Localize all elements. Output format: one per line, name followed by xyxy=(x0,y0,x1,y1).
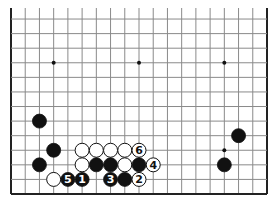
black-stone-move-5: 5 xyxy=(61,172,75,186)
stone-disc xyxy=(104,143,118,157)
stone-disc xyxy=(89,143,103,157)
black-stone xyxy=(32,114,46,128)
white-stone xyxy=(118,143,132,157)
move-number: 5 xyxy=(64,173,72,186)
stone-disc xyxy=(118,172,132,186)
move-number: 6 xyxy=(135,144,143,157)
move-number: 2 xyxy=(135,173,143,186)
white-stone xyxy=(89,143,103,157)
move-number: 4 xyxy=(149,159,157,172)
black-stone xyxy=(89,158,103,172)
move-number: 1 xyxy=(78,173,86,186)
stone-disc xyxy=(104,158,118,172)
black-stone xyxy=(232,129,246,143)
stone-disc xyxy=(118,158,132,172)
star-point xyxy=(222,148,226,152)
star-point xyxy=(52,61,56,65)
stone-disc xyxy=(118,143,132,157)
stone-disc xyxy=(32,158,46,172)
stone-disc xyxy=(89,158,103,172)
star-point xyxy=(137,61,141,65)
stone-disc xyxy=(75,143,89,157)
white-stone-move-2: 2 xyxy=(132,172,146,186)
star-point xyxy=(222,61,226,65)
black-stone xyxy=(118,172,132,186)
stone-disc xyxy=(47,172,61,186)
stone-disc xyxy=(132,158,146,172)
white-stone xyxy=(104,143,118,157)
stone-disc xyxy=(232,129,246,143)
white-stone-move-6: 6 xyxy=(132,143,146,157)
go-board: 645132 xyxy=(0,0,274,207)
white-stone xyxy=(75,143,89,157)
white-stone xyxy=(75,158,89,172)
white-stone xyxy=(47,172,61,186)
black-stone xyxy=(104,158,118,172)
black-stone-move-1: 1 xyxy=(75,172,89,186)
black-stone xyxy=(132,158,146,172)
white-stone xyxy=(118,158,132,172)
black-stone-move-3: 3 xyxy=(104,172,118,186)
white-stone-move-4: 4 xyxy=(146,158,160,172)
stone-disc xyxy=(32,114,46,128)
black-stone xyxy=(32,158,46,172)
stone-disc xyxy=(47,143,61,157)
stone-disc xyxy=(217,158,231,172)
black-stone xyxy=(217,158,231,172)
stone-disc xyxy=(75,158,89,172)
move-number: 3 xyxy=(107,173,115,186)
black-stone xyxy=(47,143,61,157)
